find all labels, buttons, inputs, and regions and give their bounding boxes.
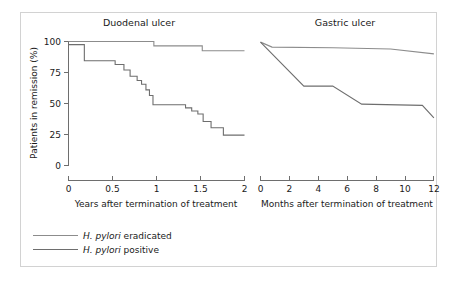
figure-root: Duodenal ulcer 100 75 50 25 0 Patients i… [0, 0, 457, 282]
legend: H. pylori eradicated H. pylori positive [33, 231, 172, 255]
chart-canvas: Duodenal ulcer 100 75 50 25 0 Patients i… [0, 0, 457, 282]
panel-title-duodenal: Duodenal ulcer [103, 17, 175, 28]
y-tick-label-100: 100 [44, 37, 61, 47]
panel-title-gastric: Gastric ulcer [315, 17, 375, 28]
x-axis-title-gastric: Months after termination of treatment [261, 199, 433, 209]
legend-item-positive: H. pylori positive [33, 245, 159, 255]
x-tick-label-g-2: 2 [287, 184, 293, 194]
x-tick-label-d-0: 0 [66, 184, 72, 194]
y-tick-label-0: 0 [55, 161, 61, 171]
legend-label-eradicated-rest: eradicated [121, 231, 172, 241]
x-tick-label-g-0: 0 [258, 184, 264, 194]
y-tick-label-75: 75 [50, 68, 61, 78]
x-tick-label-d-2: 2 [242, 184, 248, 194]
y-axis-title: Patients in remission (%) [29, 47, 39, 159]
legend-label-positive-italic: H. pylori [83, 245, 121, 255]
legend-label-positive-rest: positive [121, 245, 160, 255]
series-duodenal-positive [69, 45, 245, 136]
panel-gastric-ulcer: Gastric ulcer 0 2 4 6 8 10 12 Months aft… [258, 17, 440, 209]
y-tick-label-25: 25 [50, 130, 61, 140]
x-tick-label-d-1: 1 [154, 184, 160, 194]
x-axis-ticks-duodenal [69, 176, 245, 181]
legend-label-positive: H. pylori positive [83, 245, 159, 255]
x-tick-label-d-1.5: 1.5 [193, 184, 207, 194]
panel-duodenal-ulcer: Duodenal ulcer 100 75 50 25 0 Patients i… [29, 17, 247, 209]
x-tick-label-d-0.5: 0.5 [105, 184, 119, 194]
series-gastric-eradicated [261, 42, 434, 54]
legend-item-eradicated: H. pylori eradicated [33, 231, 172, 241]
y-tick-label-50: 50 [50, 99, 62, 109]
legend-label-eradicated: H. pylori eradicated [83, 231, 172, 241]
x-tick-label-g-8: 8 [373, 184, 379, 194]
x-tick-label-g-4: 4 [315, 184, 321, 194]
legend-label-eradicated-italic: H. pylori [83, 231, 121, 241]
x-axis-ticks-gastric [261, 176, 434, 181]
y-axis-ticks-duodenal [64, 42, 69, 166]
series-gastric-positive [261, 42, 434, 118]
series-duodenal-eradicated [69, 42, 245, 51]
x-tick-label-g-6: 6 [344, 184, 350, 194]
x-axis-title-duodenal: Years after termination of treatment [74, 199, 238, 209]
x-tick-label-g-12: 12 [428, 184, 439, 194]
x-tick-label-g-10: 10 [399, 184, 411, 194]
